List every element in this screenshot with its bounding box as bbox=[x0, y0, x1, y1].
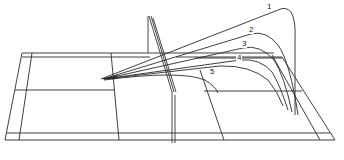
trajectory-lower bbox=[104, 66, 283, 106]
trajectory-label-3: 3 bbox=[241, 40, 247, 48]
court-lines bbox=[5, 53, 335, 140]
trajectories bbox=[101, 8, 298, 115]
trajectory-label-2: 2 bbox=[248, 26, 254, 34]
trajectory-5 bbox=[104, 75, 218, 93]
trajectory-label-4: 4 bbox=[236, 54, 242, 62]
trajectory-label-5: 5 bbox=[209, 68, 215, 76]
trajectory-2 bbox=[103, 33, 298, 115]
trajectory-1 bbox=[101, 8, 295, 115]
trajectory-label-1: 1 bbox=[266, 3, 272, 11]
badminton-court-diagram bbox=[0, 0, 344, 160]
net bbox=[148, 16, 176, 143]
